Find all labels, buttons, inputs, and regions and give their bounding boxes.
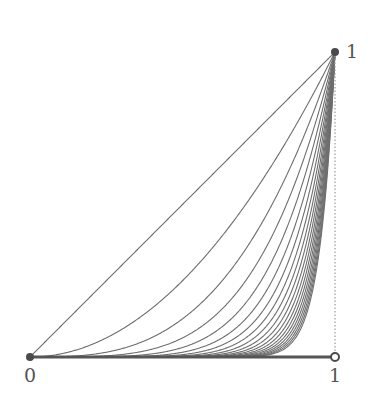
y-top-label: 1 [346, 42, 358, 61]
origin-point [26, 353, 34, 361]
x-start-label: 0 [24, 366, 36, 385]
top-right-point [331, 48, 339, 56]
power-curves-figure [0, 0, 371, 406]
curve-x-pow-1 [30, 52, 335, 357]
curve-family [30, 52, 335, 357]
x-end-label: 1 [329, 366, 341, 385]
open-endpoint [331, 353, 339, 361]
